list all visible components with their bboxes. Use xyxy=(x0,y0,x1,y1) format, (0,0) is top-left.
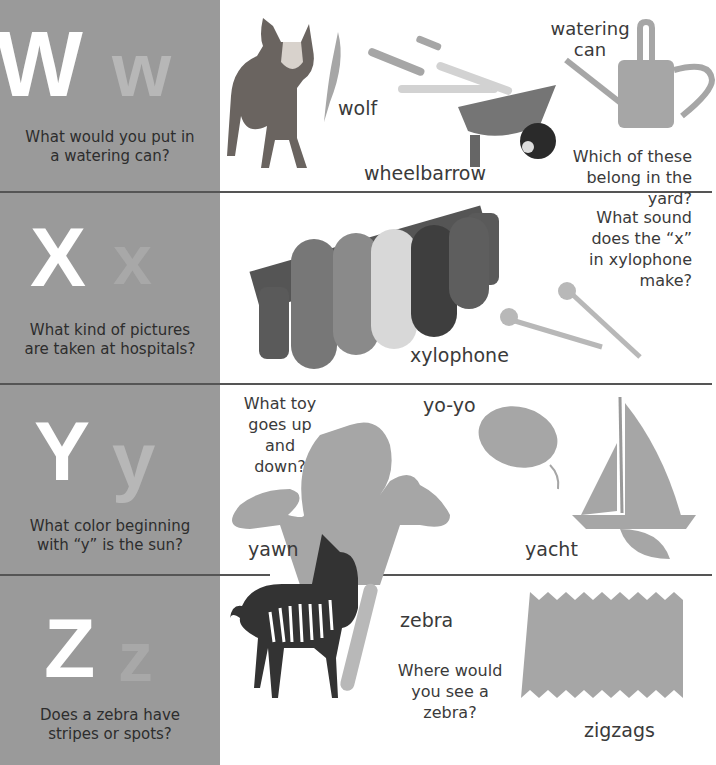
label-xylophone: xylophone xyxy=(410,345,509,366)
question-line: Where would xyxy=(390,660,510,681)
letter-upper-z: Z xyxy=(44,606,95,690)
yacht-image xyxy=(572,395,700,560)
question-line: What would you put in xyxy=(0,128,220,147)
side-question-z: Where would you see a zebra? xyxy=(390,660,510,723)
mallets-image xyxy=(497,281,647,361)
question-line: make? xyxy=(560,270,692,291)
question-line: Does a zebra have xyxy=(0,706,220,725)
label-yacht: yacht xyxy=(525,539,578,560)
letter-upper-w: W xyxy=(0,18,83,110)
question-line: does the “x” xyxy=(560,228,692,249)
label-zebra: zebra xyxy=(400,610,453,631)
label-yoyo: yo-yo xyxy=(423,395,476,416)
question-w: What would you put in a watering can? xyxy=(0,128,220,166)
section-x: X x What kind of pictures are taken at h… xyxy=(0,193,712,383)
zigzags-image xyxy=(530,588,690,706)
letter-upper-y: Y xyxy=(34,409,90,493)
question-line: zebra? xyxy=(390,702,510,723)
question-line: What color beginning xyxy=(0,517,220,536)
letter-lower-z: z xyxy=(118,622,153,692)
question-line: are taken at hospitals? xyxy=(0,340,220,359)
side-question-x: What sound does the “x” in xylophone mak… xyxy=(560,207,692,291)
question-line: What sound xyxy=(560,207,692,228)
section-y: Y y What color beginning with “y” is the… xyxy=(0,385,712,574)
label-zigzags: zigzags xyxy=(584,720,655,741)
wolf-image xyxy=(228,12,348,177)
letter-lower-y: y xyxy=(112,421,155,499)
section-w: W w What would you put in a watering can… xyxy=(0,0,712,191)
question-line: What kind of pictures xyxy=(0,321,220,340)
question-y: What color beginning with “y” is the sun… xyxy=(0,517,220,555)
question-line: with “y” is the sun? xyxy=(0,536,220,555)
yoyo-image xyxy=(478,405,568,495)
letter-lower-x: x xyxy=(113,225,152,295)
question-line: a watering can? xyxy=(0,147,220,166)
question-line: you see a xyxy=(390,681,510,702)
zebra-image xyxy=(240,550,380,735)
question-z: Does a zebra have stripes or spots? xyxy=(0,706,220,744)
watering-can-image xyxy=(566,20,716,130)
letter-upper-x: X xyxy=(30,215,86,299)
letter-lower-w: w xyxy=(112,32,171,108)
label-wheelbarrow: wheelbarrow xyxy=(364,163,486,184)
section-z: Z z Does a zebra have stripes or spots? … xyxy=(0,576,712,765)
question-x: What kind of pictures are taken at hospi… xyxy=(0,321,220,359)
question-line: What toy xyxy=(240,393,320,414)
question-line: stripes or spots? xyxy=(0,725,220,744)
question-line: Which of these xyxy=(540,146,692,167)
question-line: in xylophone xyxy=(560,249,692,270)
